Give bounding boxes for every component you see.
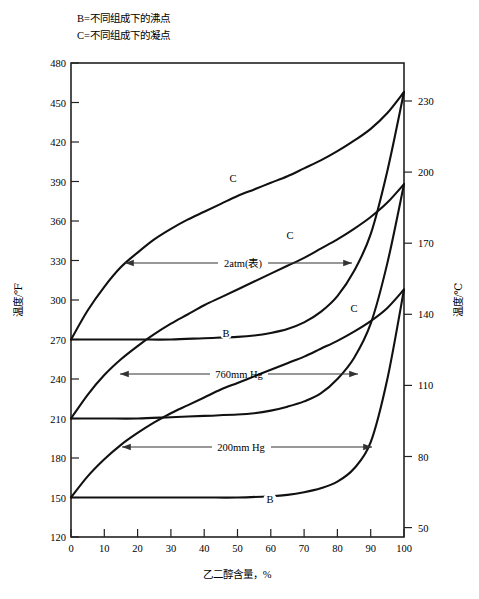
- x-tick-50: 50: [232, 543, 243, 554]
- curve-label-b-200: B: [266, 494, 273, 505]
- x-tick-80: 80: [332, 543, 343, 554]
- left-tick-240: 240: [50, 374, 66, 385]
- curve-c-200mmhg: [71, 289, 404, 497]
- curve-label-b-2atm: B: [222, 328, 229, 339]
- x-tick-20: 20: [132, 543, 143, 554]
- left-tick-270: 270: [50, 335, 66, 346]
- annotation-760mmhg-label: 760mm Hg: [215, 369, 263, 380]
- curve-label-c-2atm: C: [229, 173, 236, 184]
- left-tick-180: 180: [50, 453, 66, 464]
- x-tick-0: 0: [68, 543, 73, 554]
- x-tick-40: 40: [199, 543, 210, 554]
- right-tick-230: 230: [418, 96, 434, 107]
- x-tick-70: 70: [299, 543, 310, 554]
- left-axis-labels: 480 450 420 390 360 330 300 270 240 210 …: [50, 58, 66, 543]
- x-tick-100: 100: [396, 543, 412, 554]
- plot-frame: [71, 63, 404, 537]
- x-tick-90: 90: [365, 543, 376, 554]
- right-tick-200: 200: [418, 167, 434, 178]
- curve-b-200mmhg: [71, 289, 404, 497]
- chart-page: B=不同组成下的沸点 C=不同组成下的凝点 480 450 420 39: [0, 0, 479, 599]
- left-tick-210: 210: [50, 414, 66, 425]
- right-tick-50: 50: [418, 523, 429, 534]
- right-axis-title: 温度/℃: [452, 282, 464, 317]
- left-tick-360: 360: [50, 216, 66, 227]
- phase-diagram: 480 450 420 390 360 330 300 270 240 210 …: [0, 0, 479, 599]
- curve-label-c-200: C: [350, 303, 357, 314]
- curve-label-c-760: C: [286, 230, 293, 241]
- left-tick-420: 420: [50, 137, 66, 148]
- right-tick-140: 140: [418, 309, 434, 320]
- x-tick-60: 60: [266, 543, 277, 554]
- left-axis-title: 温度/℉: [12, 283, 24, 317]
- right-tick-170: 170: [418, 238, 434, 249]
- x-axis-title: 乙二醇含量，%: [203, 568, 272, 580]
- x-tick-30: 30: [166, 543, 177, 554]
- left-axis-ticks: [71, 63, 79, 537]
- right-axis-labels: 230 200 170 140 110 80 50: [418, 96, 434, 534]
- left-tick-120: 120: [50, 532, 66, 543]
- left-tick-390: 390: [50, 177, 66, 188]
- curve-letter-labels: C C C B B: [220, 172, 361, 506]
- x-axis-ticks: [71, 529, 404, 537]
- curve-group: [71, 92, 404, 498]
- right-tick-80: 80: [418, 452, 429, 463]
- annotation-200mmhg-label: 200mm Hg: [217, 442, 265, 453]
- right-tick-110: 110: [418, 380, 433, 391]
- annotation-200mmhg: 200mm Hg: [122, 442, 372, 453]
- annotation-760mmhg: 760mm Hg: [120, 369, 358, 380]
- annotation-2atm: 2atm(表): [125, 257, 352, 270]
- annotation-2atm-label: 2atm(表): [224, 257, 262, 270]
- left-tick-300: 300: [50, 295, 66, 306]
- right-axis-ticks: [404, 101, 412, 528]
- left-tick-330: 330: [50, 256, 66, 267]
- x-axis-labels: 0 10 20 30 40 50 60 70 80 90 100: [68, 543, 412, 554]
- left-tick-150: 150: [50, 493, 66, 504]
- x-tick-10: 10: [99, 543, 110, 554]
- left-tick-480: 480: [50, 58, 66, 69]
- left-tick-450: 450: [50, 98, 66, 109]
